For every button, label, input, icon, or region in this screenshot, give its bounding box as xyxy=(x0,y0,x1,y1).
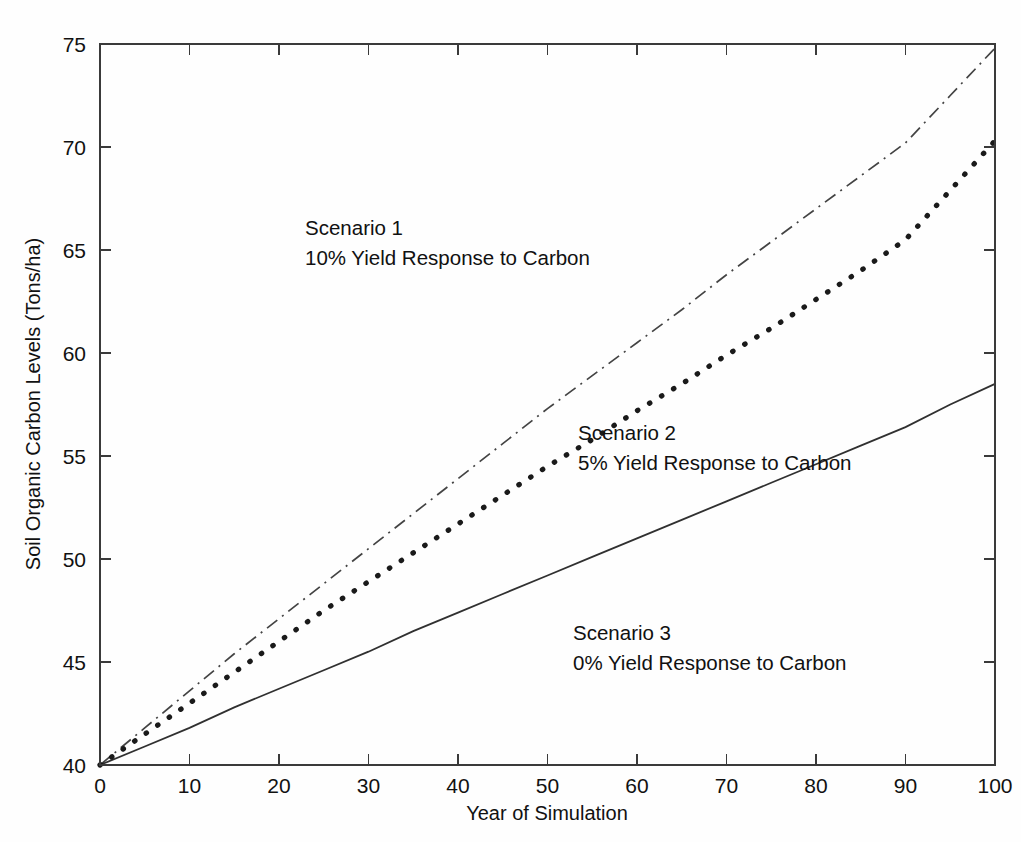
tick-marks xyxy=(100,44,995,765)
y-tick-label: 40 xyxy=(63,754,86,777)
x-tick-label: 70 xyxy=(715,774,738,797)
annotation-scenario-2-detail: 5% Yield Response to Carbon xyxy=(578,451,852,474)
x-tick-label: 30 xyxy=(357,774,380,797)
series-line-3 xyxy=(100,384,995,765)
plot-frame xyxy=(100,44,995,765)
x-tick-label: 80 xyxy=(804,774,827,797)
y-tick-label: 50 xyxy=(63,548,86,571)
x-axis-title: Year of Simulation xyxy=(466,802,628,824)
x-tick-label: 20 xyxy=(267,774,290,797)
y-tick-label: 45 xyxy=(63,651,86,674)
annotation-scenario-3-detail: 0% Yield Response to Carbon xyxy=(573,651,847,674)
y-tick-label: 70 xyxy=(63,136,86,159)
x-tick-label: 60 xyxy=(625,774,648,797)
data-series-group xyxy=(100,48,995,765)
y-axis-title: Soil Organic Carbon Levels (Tons/ha) xyxy=(22,238,44,570)
tick-labels: 01020304050607080901004045505560657075 xyxy=(63,33,1013,797)
y-tick-label: 75 xyxy=(63,33,86,56)
x-tick-label: 10 xyxy=(178,774,201,797)
x-tick-label: 0 xyxy=(94,774,106,797)
chart-figure: 01020304050607080901004045505560657075 Y… xyxy=(0,0,1021,842)
y-tick-label: 55 xyxy=(63,445,86,468)
x-tick-label: 100 xyxy=(977,774,1012,797)
annotation-scenario-3-title: Scenario 3 xyxy=(573,621,671,644)
y-tick-label: 65 xyxy=(63,239,86,262)
annotation-scenario-1-detail: 10% Yield Response to Carbon xyxy=(305,246,590,269)
x-tick-label: 40 xyxy=(446,774,469,797)
series-line-2 xyxy=(100,141,995,765)
line-chart: 01020304050607080901004045505560657075 Y… xyxy=(0,0,1021,842)
annotations-group: Scenario 110% Yield Response to CarbonSc… xyxy=(305,216,852,674)
annotation-scenario-1-title: Scenario 1 xyxy=(305,216,403,239)
series-line-1 xyxy=(100,48,995,765)
x-tick-label: 90 xyxy=(894,774,917,797)
x-tick-label: 50 xyxy=(536,774,559,797)
y-tick-label: 60 xyxy=(63,342,86,365)
annotation-scenario-2-title: Scenario 2 xyxy=(578,421,676,444)
